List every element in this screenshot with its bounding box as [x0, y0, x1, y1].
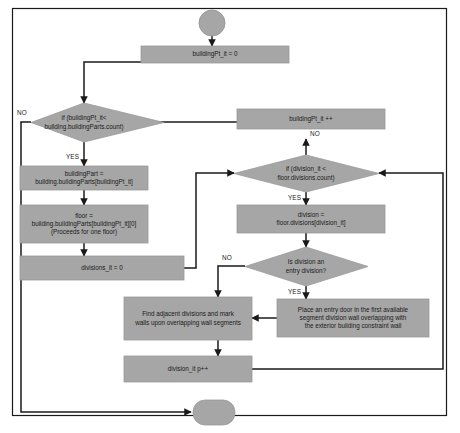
- node-cond-div[interactable]: [234, 155, 379, 192]
- node-building-part[interactable]: [20, 166, 148, 190]
- edge-condentry-no-to-find: [218, 266, 245, 297]
- edge-label-yes-buildingpt: YES: [66, 154, 79, 160]
- edge-label-yes-entry: YES: [288, 289, 301, 295]
- edge-init-to-cond: [84, 62, 141, 103]
- node-end[interactable]: [193, 400, 235, 425]
- node-cond-entry[interactable]: [245, 247, 368, 286]
- node-div-init[interactable]: [20, 256, 184, 280]
- node-floor[interactable]: [20, 205, 148, 243]
- node-place-door[interactable]: [277, 299, 429, 337]
- nodes-group: [20, 10, 429, 425]
- flowchart-canvas: buildingPt_it = 0 if (buildingPt_it< bui…: [0, 0, 460, 433]
- edge-label-no-buildingpt: NO: [17, 110, 27, 116]
- node-division[interactable]: [237, 205, 385, 233]
- edge-label-yes-division: YES: [288, 195, 301, 201]
- node-find-adjacent[interactable]: [124, 297, 252, 340]
- node-init-bpt[interactable]: [141, 46, 289, 63]
- node-div-inc[interactable]: [124, 356, 252, 382]
- flowchart-graphics: [0, 0, 460, 433]
- edge-label-no-division: NO: [310, 131, 320, 137]
- node-bpt-inc[interactable]: [237, 109, 385, 129]
- edge-label-no-entry: NO: [222, 255, 232, 261]
- node-cond-bpt[interactable]: [31, 103, 164, 142]
- node-start[interactable]: [199, 10, 225, 36]
